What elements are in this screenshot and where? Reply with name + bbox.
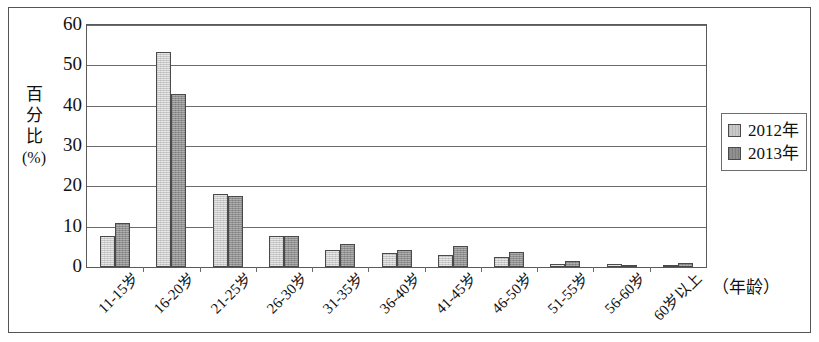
plot-area xyxy=(86,24,707,268)
y-tick-label-20: 20 xyxy=(38,175,82,194)
bar-2013年-21-25岁 xyxy=(228,196,243,267)
bar-2012年-11-15岁 xyxy=(100,236,115,267)
legend-item-2012: 2012年 xyxy=(728,119,799,142)
x-axis-title: （年龄） xyxy=(712,279,780,297)
y-tick-label-0: 0 xyxy=(38,256,82,275)
bar-2012年-60岁以上 xyxy=(663,265,678,267)
legend-swatch-2012-icon xyxy=(728,124,741,137)
y-tick-label-30: 30 xyxy=(38,135,82,154)
bar-2013年-60岁以上 xyxy=(678,263,693,267)
bar-2012年-31-35岁 xyxy=(325,250,340,267)
y-tick-label-40: 40 xyxy=(38,95,82,114)
chart-figure: 百 分 比 (%) 6050403020100 11-15岁16-20岁21-2… xyxy=(0,0,819,342)
x-tick-mark-4 xyxy=(312,267,313,272)
x-tick-mark-8 xyxy=(537,267,538,272)
legend-label-2012: 2012年 xyxy=(748,122,799,140)
legend-item-2013: 2013年 xyxy=(728,142,799,165)
bar-2013年-31-35岁 xyxy=(340,244,355,267)
x-tick-mark-10 xyxy=(650,267,651,272)
y-axis-tick-labels: 6050403020100 xyxy=(30,24,82,266)
bar-2013年-16-20岁 xyxy=(171,94,186,267)
bar-2012年-36-40岁 xyxy=(382,253,397,267)
bar-2013年-36-40岁 xyxy=(397,250,412,267)
bar-2012年-21-25岁 xyxy=(213,194,228,267)
x-tick-mark-2 xyxy=(200,267,201,272)
gridline-60 xyxy=(87,25,706,26)
legend-label-2013: 2013年 xyxy=(748,145,799,163)
bar-2012年-26-30岁 xyxy=(269,236,284,267)
bar-2013年-46-50岁 xyxy=(509,252,524,267)
bar-2013年-51-55岁 xyxy=(565,261,580,267)
x-tick-mark-3 xyxy=(256,267,257,272)
x-tick-mark-5 xyxy=(368,267,369,272)
bar-2012年-41-45岁 xyxy=(438,255,453,268)
legend-swatch-2013-icon xyxy=(728,147,741,160)
chart-legend: 2012年 2013年 xyxy=(721,113,807,171)
bar-2013年-26-30岁 xyxy=(284,236,299,267)
bar-2013年-41-45岁 xyxy=(453,246,468,267)
x-tick-mark-6 xyxy=(425,267,426,272)
gridline-50 xyxy=(87,65,706,66)
x-tick-mark-1 xyxy=(143,267,144,272)
y-tick-label-50: 50 xyxy=(38,54,82,73)
bar-2012年-16-20岁 xyxy=(156,52,171,267)
bar-2012年-56-60岁 xyxy=(607,264,622,267)
x-tick-mark-9 xyxy=(593,267,594,272)
bar-2012年-51-55岁 xyxy=(550,264,565,267)
y-tick-label-10: 10 xyxy=(38,216,82,235)
bar-2013年-56-60岁 xyxy=(622,265,637,267)
x-tick-mark-7 xyxy=(481,267,482,272)
y-tick-label-60: 60 xyxy=(38,14,82,33)
bar-2012年-46-50岁 xyxy=(494,257,509,267)
bar-2013年-11-15岁 xyxy=(115,223,130,267)
